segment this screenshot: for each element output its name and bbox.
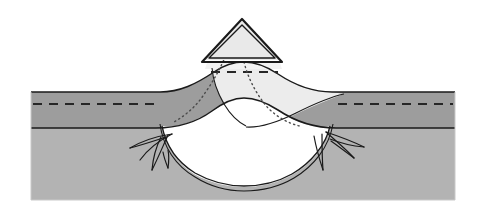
geologic-cross-section-diagram: Volcanic cone and magma chamber cross-se… (0, 0, 479, 216)
cone-base-light-band (205, 63, 282, 69)
figure-root: Volcanic cone and magma chamber cross-se… (0, 0, 479, 216)
